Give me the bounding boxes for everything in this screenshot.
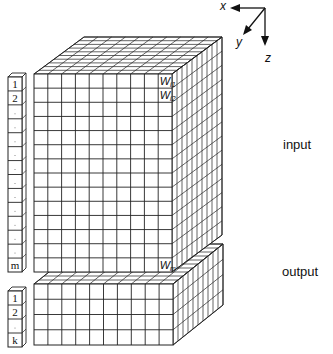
ellipsis-dot xyxy=(15,211,16,212)
ellipsis-dot xyxy=(15,141,16,142)
ellipsis-dot xyxy=(15,239,16,240)
x-axis-label: x xyxy=(220,0,226,13)
z-axis-label: z xyxy=(265,51,271,65)
input-index-label: m xyxy=(11,259,20,271)
ellipsis-dot xyxy=(15,113,16,114)
input-weight-block: Wi1Wi2Wm xyxy=(34,37,222,272)
input-index-label: 1 xyxy=(12,78,18,90)
input-label: input xyxy=(283,137,311,152)
ellipsis-dot xyxy=(15,225,16,226)
input-vector: 12m xyxy=(8,73,26,272)
ellipsis-dot xyxy=(15,183,16,184)
output-index-label: 2 xyxy=(12,306,18,318)
output-index-label: 1 xyxy=(12,292,18,304)
ellipsis-dot xyxy=(15,169,16,170)
neural-network-weight-diagram: 12m 12k Wi1Wi2Wm xyxy=(0,0,333,354)
y-axis-label: y xyxy=(236,35,242,49)
output-index-label: k xyxy=(12,334,18,346)
ellipsis-dot xyxy=(15,127,16,128)
output-label: output xyxy=(282,264,318,279)
input-index-label: 2 xyxy=(12,92,18,104)
ellipsis-dot xyxy=(15,197,16,198)
output-vector: 12k xyxy=(8,287,26,347)
ellipsis-dot xyxy=(15,155,16,156)
ellipsis-dot xyxy=(15,253,16,254)
ellipsis-dot xyxy=(15,328,16,329)
